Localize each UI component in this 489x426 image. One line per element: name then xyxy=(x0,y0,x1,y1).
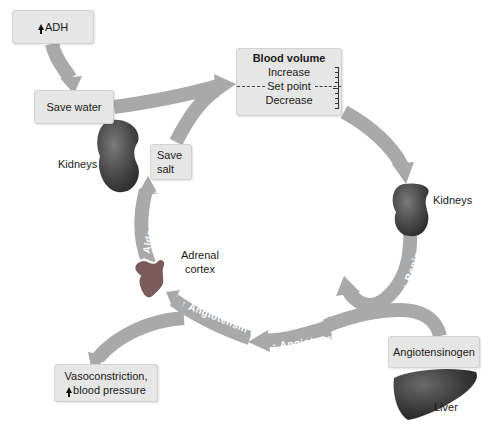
save-water-box: Save water xyxy=(34,90,114,124)
angiotensinogen-box: Angiotensinogen xyxy=(388,336,480,368)
adh-box: ADH xyxy=(12,10,94,44)
arrowhead-blood-volume xyxy=(214,74,236,98)
arrow-to-vasoconstriction xyxy=(98,318,184,358)
adrenal-cortex-label: Adrenal cortex xyxy=(181,248,219,276)
blood-volume-decrease: Decrease xyxy=(265,93,312,107)
adh-text: ADH xyxy=(38,20,68,34)
blood-volume-scale xyxy=(333,67,339,109)
kidney-left-icon xyxy=(97,120,139,192)
adrenal-cortex-icon xyxy=(134,259,165,298)
kidneys-left-label: Kidneys xyxy=(58,157,97,171)
save-salt-box: Save salt xyxy=(150,144,192,180)
arrow-adh-to-save-water xyxy=(52,44,70,78)
blood-volume-box: Blood volume Increase Set point Decrease xyxy=(236,48,342,116)
blood-volume-title: Blood volume xyxy=(253,51,326,65)
set-point-row: Set point xyxy=(237,79,341,93)
vasoconstriction-box: Vasoconstriction, blood pressure xyxy=(54,364,158,402)
kidney-right-icon xyxy=(393,183,429,236)
set-point-line-left xyxy=(237,86,265,87)
liver-label: Liver xyxy=(434,400,458,414)
blood-volume-set-point: Set point xyxy=(267,80,310,92)
kidneys-right-label: Kidneys xyxy=(433,193,472,207)
blood-volume-increase: Increase xyxy=(268,65,310,79)
arrow-blood-volume-to-kidneys xyxy=(344,112,402,166)
arrow-renin xyxy=(348,228,410,305)
arrowhead-kidneys-right xyxy=(392,162,414,184)
